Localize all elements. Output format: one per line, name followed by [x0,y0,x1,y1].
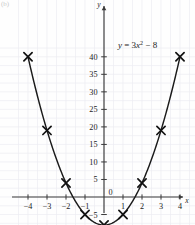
x-tick-label: 3 [159,202,163,211]
y-tick-label: 30 [89,88,97,97]
x-tick-label: 2 [140,202,144,211]
x-tick-label: −3 [43,202,52,211]
equation-annotation: y = 3x2 − 8 [117,40,158,50]
y-tick-label: 5 [93,175,97,184]
equation-label: y = 3x2 − 8 [117,40,158,50]
y-tick-label: 40 [89,53,97,62]
x-axis-label: x [184,196,189,205]
x-tick-label: −2 [62,202,71,211]
y-tick-label: 20 [89,123,97,132]
x-tick-label: 1 [121,202,125,211]
origin-label: 0 [108,188,112,197]
axis-tick-labels: xy−4−3−2−101234−10−5510152025303540 [24,0,190,225]
y-tick-label: 25 [89,105,97,114]
graph-figure: (b) xy−4−3−2−101234−10−5510152025303540 … [0,0,195,225]
x-tick-label: 4 [178,202,182,211]
y-tick-label: 35 [89,70,97,79]
y-tick-label: 10 [89,158,97,167]
y-axis-label: y [96,0,101,9]
y-tick-label: 15 [89,140,97,149]
x-tick-label: −4 [24,202,33,211]
parabola-plot: xy−4−3−2−101234−10−5510152025303540 y = … [0,0,195,225]
y-tick-label: −5 [89,211,98,220]
